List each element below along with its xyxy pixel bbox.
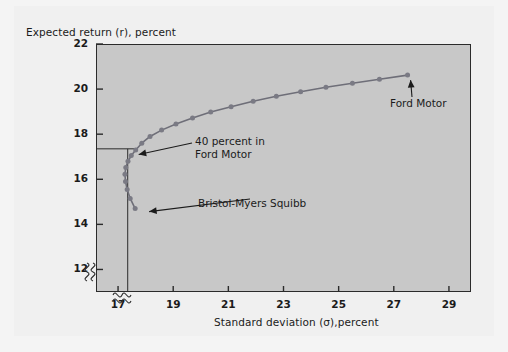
chart-figure: Expected return (r), percent Standard de… (0, 0, 508, 352)
chart-vector-layer (0, 0, 508, 352)
axis-ticks (96, 44, 449, 292)
axis-break-marks (85, 263, 131, 303)
frontier-curve (125, 75, 408, 208)
frontier-data-points (122, 73, 410, 211)
annotation-arrows (139, 80, 415, 214)
reference-lines (96, 149, 136, 292)
